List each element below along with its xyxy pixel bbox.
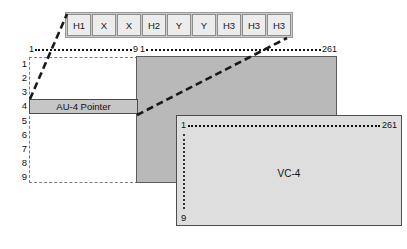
row-number-column: 1 2 3 4 5 6 7 8 9 bbox=[14, 57, 27, 183]
row-number-6: 6 bbox=[14, 128, 27, 141]
payload-column-end: 261 bbox=[322, 44, 337, 54]
diagram-canvas: H1 X X H2 Y Y H3 H3 H3 1 9 1 261 1 2 3 4… bbox=[0, 0, 407, 249]
byte-cell-y-1: Y bbox=[167, 14, 191, 36]
byte-cell-h3-1: H3 bbox=[217, 14, 241, 36]
row-number-7: 7 bbox=[14, 142, 27, 155]
payload-column-start: 1 bbox=[140, 44, 145, 54]
overhead-byte-row: H1 X X H2 Y Y H3 H3 H3 bbox=[65, 12, 293, 38]
overhead-column-end: 9 bbox=[133, 44, 138, 54]
row-number-1: 1 bbox=[14, 57, 27, 70]
row-number-2: 2 bbox=[14, 71, 27, 84]
au4-pointer-bar: AU-4 Pointer bbox=[29, 99, 138, 114]
payload-ruler-dots bbox=[146, 44, 321, 53]
overhead-ruler-dots bbox=[35, 44, 132, 53]
byte-cell-h2: H2 bbox=[142, 14, 166, 36]
overhead-column-start: 1 bbox=[29, 44, 34, 54]
vc4-container-box: 1 261 9 VC-4 bbox=[176, 115, 402, 226]
byte-cell-h3-3: H3 bbox=[267, 14, 291, 36]
vc4-column-ruler: 1 261 bbox=[181, 119, 397, 130]
overhead-column-ruler: 1 9 bbox=[29, 43, 138, 54]
row-number-4: 4 bbox=[14, 99, 27, 112]
byte-cell-x-1: X bbox=[92, 14, 116, 36]
byte-cell-x-2: X bbox=[117, 14, 141, 36]
vc4-column-start: 1 bbox=[181, 120, 186, 130]
vc4-ruler-dots bbox=[188, 120, 380, 129]
byte-cell-h1: H1 bbox=[67, 14, 91, 36]
vc4-label: VC-4 bbox=[177, 167, 401, 178]
row-number-5: 5 bbox=[14, 114, 27, 127]
au4-pointer-label: AU-4 Pointer bbox=[56, 101, 110, 112]
byte-cell-h3-2: H3 bbox=[242, 14, 266, 36]
byte-cell-y-2: Y bbox=[192, 14, 216, 36]
row-number-3: 3 bbox=[14, 85, 27, 98]
row-number-9: 9 bbox=[14, 170, 27, 183]
row-number-8: 8 bbox=[14, 156, 27, 169]
section-overhead-frame bbox=[29, 57, 138, 183]
payload-column-ruler: 1 261 bbox=[140, 43, 337, 54]
vc4-column-end: 261 bbox=[382, 120, 397, 130]
vc4-row-end-label: 9 bbox=[181, 212, 186, 223]
